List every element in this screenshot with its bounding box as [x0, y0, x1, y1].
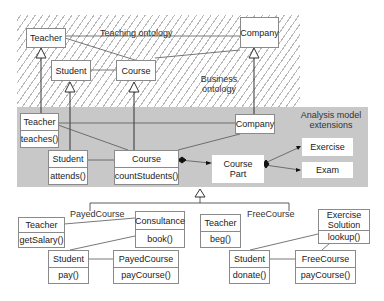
class-name: Exam [303, 163, 352, 177]
class-student-payed[interactable]: Student pay() [48, 250, 89, 284]
class-name: FreeCourse [296, 251, 355, 267]
class-name: Company [241, 18, 278, 47]
class-teacher-payed[interactable]: Teacher getSalary() [18, 217, 65, 248]
class-name: Teacher [27, 29, 65, 47]
class-name: Company [236, 115, 274, 133]
class-name: Teacher [19, 218, 64, 232]
business-ontology-label: Business ontology [194, 74, 244, 94]
class-course-analysis[interactable]: Course countStudents() [114, 150, 179, 185]
generalization-triangle-teacher [36, 48, 46, 58]
class-name: Student [52, 61, 90, 80]
class-name: Exercise [303, 139, 352, 155]
class-name: PayedCourse [114, 251, 178, 267]
class-name: Course [117, 61, 155, 80]
class-student-top[interactable]: Student [51, 60, 91, 81]
class-payed-course[interactable]: PayedCourse payCourse() [113, 250, 179, 284]
class-name: Teacher [201, 215, 240, 231]
class-name-line2: Part [230, 169, 247, 179]
class-operation: beg() [201, 231, 240, 248]
generalization-triangle-student [65, 82, 75, 92]
class-name-line1: Exercise [327, 210, 362, 220]
class-name: Student [49, 251, 88, 267]
class-student-analysis[interactable]: Student attends() [48, 150, 88, 185]
analysis-model-label-line2: extensions [296, 120, 366, 130]
generalization-triangle-course [129, 82, 139, 92]
class-teacher-top[interactable]: Teacher [26, 28, 66, 48]
class-operation: teaches() [21, 130, 58, 147]
class-operation: payCourse() [296, 267, 355, 284]
class-consultance[interactable]: Consultance book() [135, 211, 185, 248]
teaching-ontology-label: Teaching ontology [100, 28, 173, 38]
class-name: Teacher [21, 114, 58, 130]
class-company-top[interactable]: Company [240, 17, 279, 48]
class-exam[interactable]: Exam [302, 162, 353, 178]
business-ontology-label-line2: ontology [194, 84, 244, 94]
analysis-model-label-line1: Analysis model [296, 110, 366, 120]
business-ontology-label-line1: Business [194, 74, 244, 84]
free-course-group-label: FreeCourse [247, 209, 295, 219]
class-name-line2: Solution [328, 220, 361, 230]
generalization-triangle-company [249, 48, 259, 58]
class-operation: getSalary() [19, 232, 64, 247]
generalization-triangle-course-subtypes [195, 189, 205, 197]
class-student-free[interactable]: Student donate() [229, 250, 270, 284]
ontology-diagram: Teaching ontology Business ontology Anal… [0, 0, 384, 301]
class-name: Exercise Solution [319, 210, 369, 230]
class-operation: lookup() [319, 230, 369, 243]
payed-course-group-label: PayedCourse [70, 209, 125, 219]
class-operation: countStudents() [115, 167, 178, 184]
analysis-model-label: Analysis model extensions [296, 110, 366, 130]
class-company-analysis[interactable]: Company [235, 114, 275, 134]
class-operation: pay() [49, 267, 88, 284]
class-operation: attends() [49, 167, 87, 184]
composition-diamond-course [178, 157, 186, 163]
class-teacher-free[interactable]: Teacher beg() [200, 214, 241, 248]
class-name: Consultance [136, 212, 184, 229]
class-course-top[interactable]: Course [116, 60, 156, 81]
class-teacher-analysis[interactable]: Teacher teaches() [20, 113, 59, 148]
class-name: Course [115, 151, 178, 167]
class-operation: payCourse() [114, 267, 178, 284]
class-operation: donate() [230, 267, 269, 284]
class-course-part[interactable]: Course Part [212, 155, 264, 183]
class-free-course[interactable]: FreeCourse payCourse() [295, 250, 356, 284]
class-name: Course Part [213, 156, 263, 182]
class-exercise-solution[interactable]: Exercise Solution lookup() [318, 209, 370, 244]
class-name: Student [230, 251, 269, 267]
class-exercise[interactable]: Exercise [302, 138, 353, 156]
class-name: Student [49, 151, 87, 167]
class-name-line1: Course [223, 159, 252, 169]
class-operation: book() [136, 229, 184, 247]
